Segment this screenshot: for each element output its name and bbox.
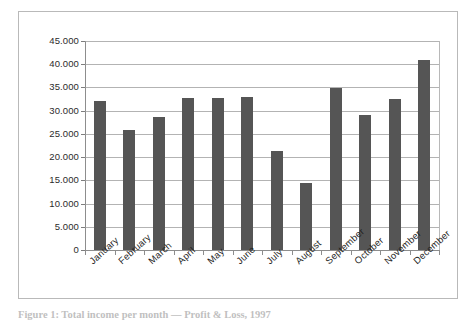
gridline [85,204,439,205]
x-axis-tick-mark [410,250,411,255]
y-axis-tick-label: 15.000 [33,175,79,185]
y-axis-tick-label: 45.000 [33,36,79,46]
figure-caption: Figure 1: Total income per month — Profi… [18,309,468,321]
y-axis-tick-label: 30.000 [33,106,79,116]
x-axis-tick-mark [292,250,293,255]
gridline [85,134,439,135]
gridline [85,41,439,42]
gridline [85,227,439,228]
bar [241,97,253,250]
y-axis-tick-label: 25.000 [33,129,79,139]
y-axis-tick-label: 20.000 [33,152,79,162]
plot-area [85,41,439,250]
x-axis-tick-mark [351,250,352,255]
bar [212,98,224,250]
bar [330,88,342,250]
chart-frame: 45.00040.00035.00030.00025.00020.00015.0… [18,11,458,299]
bar [418,60,430,250]
plot-right-border [439,41,440,251]
gridline [85,157,439,158]
bar [94,101,106,250]
gridline [85,180,439,181]
x-axis-tick-mark [233,250,234,255]
x-axis-tick-mark [380,250,381,255]
gridline [85,64,439,65]
bar [153,117,165,250]
bar [300,183,312,250]
bar [182,98,194,250]
x-axis-tick-mark [262,250,263,255]
y-axis-tick-label: 40.000 [33,59,79,69]
y-axis-tick-labels: 45.00040.00035.00030.00025.00020.00015.0… [29,12,79,300]
gridline [85,111,439,112]
x-axis-tick-mark [203,250,204,255]
bar [389,99,401,250]
bar [271,151,283,250]
figure-root: 45.00040.00035.00030.00025.00020.00015.0… [0,0,475,322]
y-axis-tick-label: 5.000 [33,222,79,232]
gridline [85,87,439,88]
y-axis-tick-label: 0 [33,245,79,255]
y-axis-tick-label: 10.000 [33,199,79,209]
x-axis-tick-mark [174,250,175,255]
y-axis-tick-label: 35.000 [33,82,79,92]
x-axis-tick-mark [144,250,145,255]
x-axis-tick-mark [115,250,116,255]
bar [123,130,135,250]
x-axis-tick-mark [321,250,322,255]
x-axis-tick-mark [85,250,86,255]
x-axis-tick-mark [439,250,440,255]
